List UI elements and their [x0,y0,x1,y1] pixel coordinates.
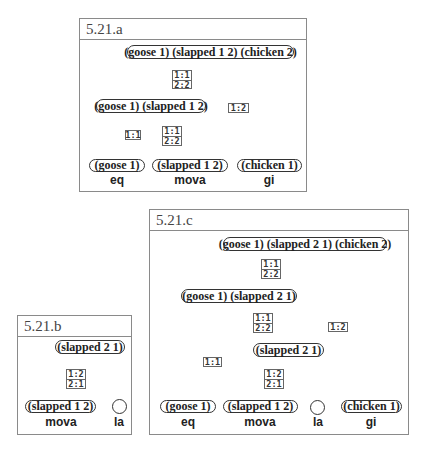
tree-leaf-slapped: (slapped 1 2) [25,400,96,413]
edge-label-root-slapped: 1:2 2:1 [66,369,86,389]
word-label-gi: gi [264,173,275,187]
edge-label-mid-sub: 1:1 2:2 [253,313,273,333]
tree-node-sub: (slapped 2 1) [253,343,324,357]
edge-label-root-chicken: 1:2 [228,103,249,113]
tree-node-root: (goose 1) (slapped 2 1) (chicken 2) [223,237,387,251]
tree-node-mid: (goose 1) (slapped 1 2) [96,99,206,113]
edge-label-root-mid: 1:1 2:2 [172,70,192,89]
tree-leaf-chicken: (chicken 1) [237,159,302,172]
word-label-la: la [313,415,323,429]
tree-leaf-chicken: (chicken 1) [341,400,402,413]
word-label-eq: eq [110,173,124,187]
tree-leaf-goose: (goose 1) [89,159,145,172]
edge-label-mid-goose: 1:1 [125,130,141,140]
edge-label-mid-slapped: 1:1 2:2 [162,126,182,146]
word-label-la: la [114,415,124,429]
tree-leaf-goose: (goose 1) [160,400,216,413]
tree-leaf-empty-circle [112,399,127,414]
panel-title: 5.21.b [18,316,131,337]
edge-label-sub-slapped: 1:2 2:1 [264,369,284,389]
edge-label-root-chicken: 1:2 [328,322,348,332]
tree-leaf-empty-circle [310,400,325,415]
word-label-mova: mova [174,173,205,187]
tree-node-root: (slapped 2 1) [55,340,125,354]
tree-node-root: (goose 1) (slapped 1 2) (chicken 2) [127,45,294,59]
word-label-eq: eq [181,415,195,429]
tree-leaf-slapped: (slapped 1 2) [223,400,298,413]
edge-label-root-mid: 1:1 2:2 [261,259,281,279]
panel-title: 5.21.a [80,19,306,40]
tree-leaf-slapped: (slapped 1 2) [152,159,228,172]
panel-title: 5.21.c [150,210,408,231]
tree-node-mid: (goose 1) (slapped 2 1) [181,289,297,303]
edge-label-mid-goose: 1:1 [203,357,222,367]
word-label-mova: mova [45,415,76,429]
word-label-gi: gi [366,415,377,429]
word-label-mova: mova [244,415,275,429]
